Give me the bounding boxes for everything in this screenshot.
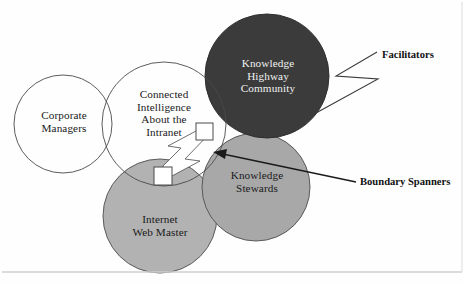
circle-corporate-managers — [14, 75, 112, 173]
boundary-marker-upper — [196, 123, 213, 140]
circle-knowledge-highway-community — [205, 14, 329, 138]
boundary-marker-lower — [154, 167, 172, 185]
callout-label-facilitators: Facilitators — [382, 49, 434, 60]
circle-knowledge-stewards — [202, 133, 310, 241]
diagram-canvas: Corporate Managers Connected Intelligenc… — [0, 0, 464, 284]
callout-label-boundary-spanners: Boundary Spanners — [360, 176, 450, 187]
venn-diagram-svg — [0, 0, 464, 284]
